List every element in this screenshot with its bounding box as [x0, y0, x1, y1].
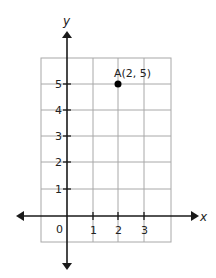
tick-marks — [63, 84, 144, 220]
x-axis-right-arrow-icon — [191, 211, 199, 221]
x-tick-label: 2 — [115, 224, 122, 237]
x-tick-label: 1 — [90, 224, 97, 237]
point-a-label: A(2, 5) — [114, 67, 151, 80]
x-tick-label: 3 — [141, 224, 148, 237]
y-tick-label: 1 — [55, 183, 62, 196]
y-axis-down-arrow-icon — [62, 263, 72, 270]
y-tick-label: 5 — [55, 78, 62, 91]
origin-label: 0 — [56, 223, 63, 236]
y-tick-label: 2 — [55, 156, 62, 169]
y-tick-label: 3 — [55, 130, 62, 143]
y-axis-up-arrow-icon — [62, 31, 72, 38]
x-axis-label: x — [199, 210, 208, 224]
y-tick-label: 4 — [55, 104, 62, 117]
y-axis-label: y — [62, 14, 71, 28]
point-a — [115, 81, 122, 88]
coordinate-plane: y x 0 1 2 3 1 2 3 4 5 A(2, 5) — [0, 0, 216, 278]
x-axis-left-arrow-icon — [16, 211, 24, 221]
